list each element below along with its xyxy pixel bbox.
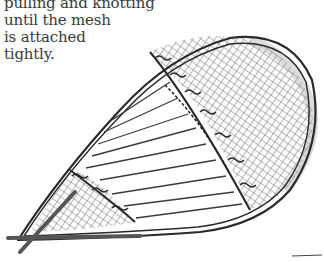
snowshoe-illustration (0, 0, 324, 262)
artist-signature (292, 255, 322, 256)
